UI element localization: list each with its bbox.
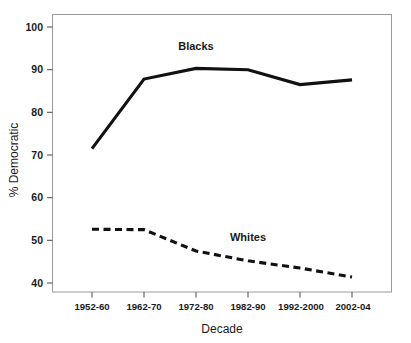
x-tick-label-2002-04: 2002-04: [335, 301, 371, 312]
x-tick-label-1992-2000: 1992-2000: [278, 301, 324, 312]
series-label-blacks: Blacks: [178, 40, 213, 52]
y-tick-label-60: 60: [31, 191, 43, 203]
chart-figure: 100 90 80 70 60 50 40 1952-60 1962-70 19…: [0, 0, 411, 343]
y-tick-label-100: 100: [25, 21, 43, 33]
y-tick-label-90: 90: [31, 63, 43, 75]
line-chart-svg: 100 90 80 70 60 50 40 1952-60 1962-70 19…: [0, 0, 411, 343]
x-tick-label-1952-60: 1952-60: [74, 301, 109, 312]
y-axis-title: % Democratic: [7, 123, 21, 198]
x-tick-label-1982-90: 1982-90: [230, 301, 265, 312]
y-tick-label-70: 70: [31, 149, 43, 161]
y-tick-label-40: 40: [31, 277, 43, 289]
y-tick-label-50: 50: [31, 234, 43, 246]
y-tick-label-80: 80: [31, 106, 43, 118]
series-label-whites: Whites: [230, 231, 266, 243]
x-axis-title: Decade: [201, 322, 243, 336]
x-tick-label-1972-80: 1972-80: [178, 301, 213, 312]
x-tick-label-1962-70: 1962-70: [126, 301, 161, 312]
